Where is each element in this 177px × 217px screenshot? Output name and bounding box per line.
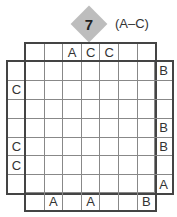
- left-clues: C C C: [6, 60, 26, 195]
- grid-cell[interactable]: [44, 80, 63, 99]
- left-clue: [7, 61, 26, 80]
- right-clue: [155, 99, 174, 118]
- top-clue: [137, 43, 156, 62]
- grid-cell[interactable]: [118, 118, 137, 137]
- grid-cell[interactable]: [25, 99, 44, 118]
- grid-cell[interactable]: [25, 118, 44, 137]
- top-clues: A C C: [24, 42, 157, 62]
- grid-cell[interactable]: [44, 118, 63, 137]
- left-clue: C: [7, 156, 26, 175]
- bottom-clue: [118, 193, 137, 212]
- grid-cell[interactable]: [63, 156, 82, 175]
- grid-cell[interactable]: [25, 80, 44, 99]
- top-clue: A: [63, 43, 82, 62]
- right-clue: B: [155, 118, 174, 137]
- grid-cell[interactable]: [100, 156, 119, 175]
- left-clue: [7, 99, 26, 118]
- grid-cell[interactable]: [81, 61, 100, 80]
- bottom-clue: [25, 193, 44, 212]
- top-clue: [25, 43, 44, 62]
- grid-cell[interactable]: [81, 137, 100, 156]
- grid-cell[interactable]: [81, 99, 100, 118]
- left-clue: C: [7, 137, 26, 156]
- left-clue: [7, 118, 26, 137]
- puzzle-number: 7: [76, 11, 102, 37]
- right-clues: B B B A: [154, 60, 174, 195]
- top-clue: C: [81, 43, 100, 62]
- grid-cell[interactable]: [63, 118, 82, 137]
- right-clue: B: [155, 61, 174, 80]
- top-clue: [44, 43, 63, 62]
- grid-cell[interactable]: [44, 156, 63, 175]
- top-clue: [118, 43, 137, 62]
- grid-cell[interactable]: [100, 61, 119, 80]
- grid-cell[interactable]: [63, 99, 82, 118]
- grid-cell[interactable]: [44, 61, 63, 80]
- left-clue: [7, 175, 26, 194]
- grid-cell[interactable]: [100, 99, 119, 118]
- right-clue: A: [155, 175, 174, 194]
- bottom-clue: B: [137, 193, 156, 212]
- grid-cell[interactable]: [25, 137, 44, 156]
- grid-cell[interactable]: [81, 80, 100, 99]
- grid-cell[interactable]: [25, 61, 44, 80]
- grid-cell[interactable]: [81, 118, 100, 137]
- grid-cell[interactable]: [118, 61, 137, 80]
- right-clue: [155, 156, 174, 175]
- grid-cell[interactable]: [63, 61, 82, 80]
- grid-cell[interactable]: [100, 137, 119, 156]
- bottom-clues: A A B: [24, 192, 157, 212]
- grid-cell[interactable]: [118, 137, 137, 156]
- grid-cell[interactable]: [44, 137, 63, 156]
- bottom-clue: A: [81, 193, 100, 212]
- bottom-clue: A: [44, 193, 63, 212]
- right-clue: B: [155, 137, 174, 156]
- grid-cell[interactable]: [118, 80, 137, 99]
- bottom-clue: [100, 193, 119, 212]
- grid-cell[interactable]: [118, 99, 137, 118]
- left-clue: C: [7, 80, 26, 99]
- grid-cell[interactable]: [100, 80, 119, 99]
- grid-cell[interactable]: [63, 137, 82, 156]
- grid-cell[interactable]: [44, 99, 63, 118]
- grid-cell[interactable]: [118, 156, 137, 175]
- top-clue: C: [100, 43, 119, 62]
- grid-cell[interactable]: [81, 156, 100, 175]
- right-clue: [155, 80, 174, 99]
- puzzle-grid: [24, 60, 157, 195]
- bottom-clue: [63, 193, 82, 212]
- grid-cell[interactable]: [63, 80, 82, 99]
- grid-cell[interactable]: [25, 156, 44, 175]
- letter-range: (A–C): [115, 16, 149, 31]
- grid-cell[interactable]: [100, 118, 119, 137]
